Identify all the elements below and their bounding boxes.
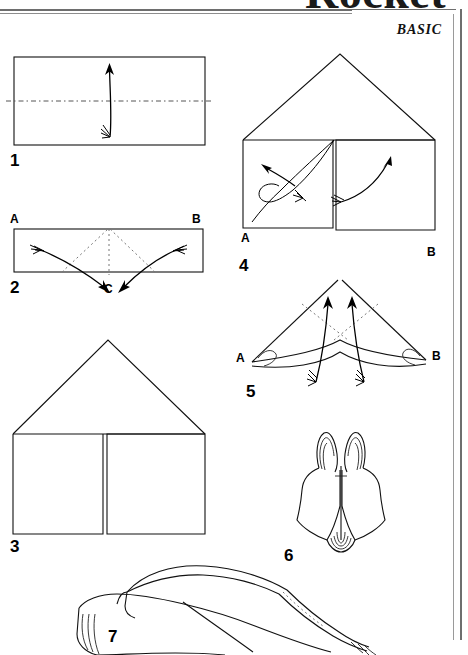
step3-roof (13, 340, 205, 434)
step-number-1: 1 (10, 152, 19, 169)
step4-right-arrow-shaft (341, 164, 387, 202)
step1-fold-arrow-shaft (110, 69, 111, 137)
step7-left-fin-front (125, 592, 135, 618)
step6-right-fin-inner2 (355, 443, 359, 470)
step6-left-fin-inner2 (323, 443, 327, 470)
step6-body-left (297, 468, 340, 540)
page-border-right-outer (460, 9, 462, 640)
step-number-7: 7 (108, 628, 117, 645)
page-subtitle: BASIC (397, 22, 442, 38)
step-number-2: 2 (10, 279, 19, 296)
figure-step-3 (0, 330, 220, 545)
step4-roof (243, 54, 435, 140)
step2-label-B: B (192, 213, 201, 225)
step7-right-fin-bottom (279, 594, 367, 651)
step7-left-line-1 (82, 614, 88, 650)
step7-left-line-3 (94, 614, 99, 654)
step5-right-edge (342, 280, 426, 360)
step-number-5: 5 (246, 383, 255, 400)
step5-lower-edge (252, 352, 426, 367)
step7-right-fin-top (287, 590, 369, 647)
step2-arrow-right-head (118, 280, 130, 293)
step4-right-arrowhead (383, 156, 392, 168)
step2-arrow-left-shaft (41, 250, 104, 287)
step4-left-arrowhead (261, 164, 272, 174)
step4-right-panel (336, 140, 435, 230)
step2-arrow-right-shaft (124, 250, 176, 287)
step6-left-fin-inner1 (320, 438, 334, 469)
header-rule-top-secondary (0, 13, 352, 14)
figure-step-4 (235, 50, 450, 235)
figure-step-1 (0, 45, 220, 160)
figure-step-7 (55, 560, 385, 655)
step4-left-arrow-feather (293, 190, 306, 202)
step5-label-B: B (432, 350, 441, 362)
step1-arrow-feather (101, 125, 110, 138)
step4-label-A: A (241, 232, 250, 244)
step7-top-edge (127, 566, 287, 592)
step4-left-arrow-curl (259, 184, 279, 202)
step2-label-A: A (10, 213, 19, 225)
step2-dotted-fold-left (62, 229, 108, 272)
step5-dotted-fold-right (334, 304, 378, 340)
step5-label-A: A (236, 352, 245, 364)
step3-left-panel (13, 434, 103, 534)
step7-top-inner-edge (127, 575, 279, 594)
step2-arrow-left-feather (30, 245, 44, 254)
step-number-3: 3 (10, 538, 19, 555)
step7-left-line-2 (88, 614, 93, 652)
step4-label-B: B (427, 246, 436, 258)
step6-body-right (342, 468, 385, 540)
step2-arrow-right-feather (173, 245, 187, 254)
step3-right-panel (107, 434, 205, 534)
step4-left-arrow-outer (252, 140, 334, 222)
step7-body-crease (183, 602, 253, 652)
step6-right-fin-inner1 (348, 438, 362, 469)
page-title: Rocket (305, 0, 446, 16)
figure-step-6 (285, 420, 400, 555)
figure-step-5 (230, 278, 460, 393)
header-rule-top (0, 9, 352, 11)
step-number-4: 4 (239, 257, 248, 274)
step5-arrow-left-feather (307, 370, 317, 386)
step5-left-edge (252, 280, 338, 362)
step7-right-fin-dotted-crease (283, 592, 323, 626)
step5-inner-upper-edge (252, 340, 426, 362)
step2-label-C: C (104, 283, 113, 295)
step5-arrow-left-shaft (316, 304, 328, 382)
